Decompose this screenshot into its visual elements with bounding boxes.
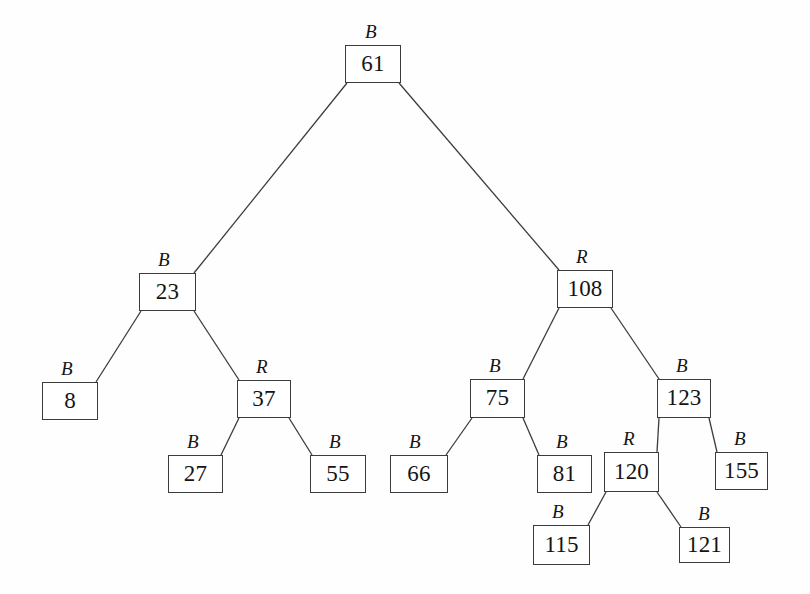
- tree-node-value: 123: [666, 386, 701, 409]
- node-color-label-61: B: [365, 22, 377, 41]
- tree-node-121: 121: [679, 527, 730, 563]
- tree-node-123: 123: [657, 379, 711, 418]
- tree-node-value: 61: [361, 52, 384, 75]
- node-color-label-115: B: [552, 502, 564, 521]
- tree-node-value: 8: [64, 389, 76, 412]
- tree-node-value: 108: [567, 277, 602, 300]
- node-color-label-120: R: [623, 429, 635, 448]
- node-color-label-27: B: [187, 432, 199, 451]
- tree-node-61: 61: [345, 45, 401, 83]
- tree-edge-n23-n8: [96, 311, 141, 382]
- node-color-label-66: B: [409, 432, 421, 451]
- red-black-tree-diagram: B61B23R108B8R37B27B55B75B123B66B81R120B1…: [0, 0, 810, 594]
- tree-node-8: 8: [42, 382, 98, 420]
- tree-node-37: 37: [237, 380, 291, 418]
- tree-node-value: 115: [544, 533, 578, 556]
- tree-node-value: 66: [407, 462, 430, 485]
- node-color-label-23: B: [158, 250, 170, 269]
- tree-edge-n108-n123: [611, 308, 659, 379]
- node-color-label-8: B: [61, 359, 73, 378]
- tree-node-115: 115: [533, 525, 590, 565]
- tree-node-value: 23: [156, 280, 179, 303]
- tree-node-value: 55: [326, 462, 349, 485]
- tree-node-155: 155: [715, 452, 768, 490]
- tree-edge-n37-n55: [289, 418, 312, 455]
- tree-edge-n61-n23: [194, 83, 347, 273]
- tree-edge-n120-n121: [657, 492, 681, 527]
- tree-edge-n120-n115: [588, 492, 606, 525]
- tree-node-55: 55: [310, 455, 366, 493]
- tree-node-value: 81: [553, 462, 576, 485]
- tree-edge-n75-n81: [523, 418, 539, 455]
- tree-node-value: 75: [486, 386, 509, 409]
- tree-node-value: 155: [724, 459, 759, 482]
- node-color-label-121: B: [698, 504, 710, 523]
- node-color-label-55: B: [329, 432, 341, 451]
- tree-node-108: 108: [557, 270, 613, 308]
- tree-node-75: 75: [470, 379, 525, 418]
- node-color-label-75: B: [489, 356, 501, 375]
- tree-edge-n23-n37: [194, 311, 239, 380]
- tree-node-value: 37: [252, 387, 275, 410]
- tree-node-66: 66: [390, 455, 448, 493]
- tree-edge-layer: [0, 0, 810, 594]
- tree-node-120: 120: [604, 452, 659, 492]
- tree-edge-n61-n108: [399, 83, 559, 270]
- node-color-label-155: B: [734, 429, 746, 448]
- tree-edge-n37-n27: [221, 418, 239, 455]
- tree-node-value: 27: [184, 462, 207, 485]
- tree-node-23: 23: [139, 273, 196, 311]
- tree-node-value: 121: [687, 533, 722, 556]
- tree-node-81: 81: [537, 455, 592, 493]
- node-color-label-81: B: [556, 432, 568, 451]
- node-color-label-123: B: [676, 356, 688, 375]
- node-color-label-37: R: [256, 357, 268, 376]
- tree-node-27: 27: [168, 455, 223, 493]
- tree-edge-n75-n66: [446, 418, 472, 455]
- tree-edge-n123-n120: [657, 418, 659, 452]
- tree-node-value: 120: [614, 460, 649, 483]
- tree-edge-n123-n155: [709, 418, 717, 452]
- tree-edge-n108-n75: [523, 308, 559, 379]
- node-color-label-108: R: [576, 247, 588, 266]
